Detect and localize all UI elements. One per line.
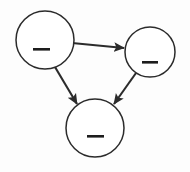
bottom-node-label-redacted-bar: [87, 135, 104, 138]
directed-graph-diagram: [0, 0, 190, 172]
bottom-node-circle: [66, 99, 124, 157]
top-left-node: [16, 11, 74, 69]
top-right-node-label-redacted-bar: [142, 61, 158, 64]
edge-top-right-to-bottom: [114, 73, 136, 104]
top-left-node-circle: [16, 11, 74, 69]
top-right-node-circle: [125, 27, 175, 77]
nodes-layer: [16, 11, 175, 157]
top-left-node-label-redacted-bar: [33, 48, 50, 51]
top-right-node: [125, 27, 175, 77]
edge-top-left-to-top-right: [72, 43, 124, 48]
graph-svg-canvas: [0, 0, 190, 172]
edge-top-left-to-bottom: [55, 67, 77, 104]
bottom-node: [66, 99, 124, 157]
